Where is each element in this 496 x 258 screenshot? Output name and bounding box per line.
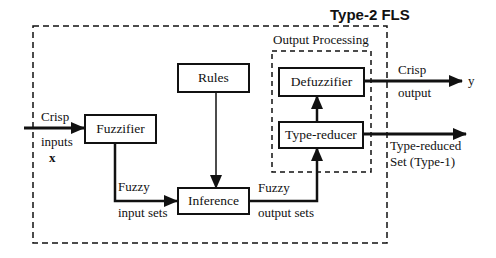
type2-fls-diagram: Type-2 FLS Output Processing Fuzzifier R…	[0, 0, 496, 258]
fuzzifier-block: Fuzzifier	[84, 114, 157, 144]
crisp-inputs-label-2: inputs	[41, 135, 73, 149]
type-reducer-block: Type-reducer	[278, 121, 364, 149]
crisp-output-label-1: Crisp	[398, 63, 426, 77]
output-processing-label: Output Processing	[273, 33, 369, 47]
diagram-lines	[0, 0, 496, 258]
type-reduced-label-1: Type-reduced	[390, 139, 461, 153]
output-variable-y: y	[468, 74, 475, 88]
fuzzy-output-label-2: output sets	[258, 206, 314, 220]
inference-block: Inference	[177, 187, 250, 215]
type-reduced-label-2: Set (Type-1)	[390, 155, 455, 169]
diagram-title: Type-2 FLS	[330, 6, 410, 23]
defuzzifier-block: Defuzzifier	[278, 67, 365, 97]
fuzzy-input-label-2: input sets	[118, 206, 167, 220]
rules-block: Rules	[177, 63, 250, 93]
fuzzy-output-label-1: Fuzzy	[258, 181, 290, 195]
fuzzy-input-label-1: Fuzzy	[118, 180, 150, 194]
input-variable-x: x	[49, 151, 56, 165]
crisp-output-label-2: output	[398, 86, 431, 100]
crisp-inputs-label-1: Crisp	[41, 110, 69, 124]
